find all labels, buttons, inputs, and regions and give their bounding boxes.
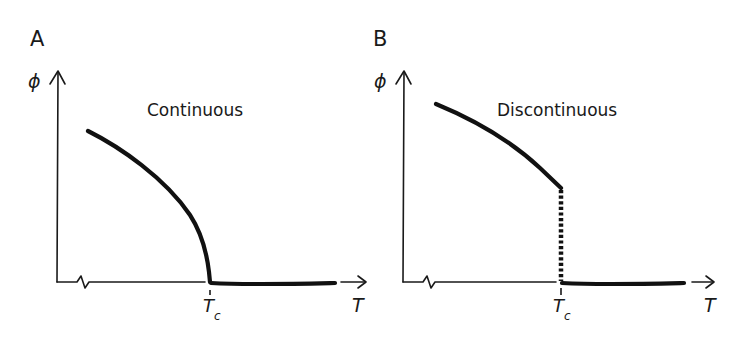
panel-a-title: Continuous bbox=[147, 100, 243, 120]
panel-a-tc-subscript: c bbox=[214, 309, 221, 323]
panel-a-order-parameter-curve bbox=[88, 131, 210, 282]
panel-a-y-label: ϕ bbox=[28, 70, 41, 92]
panel-b-title: Discontinuous bbox=[497, 100, 617, 120]
panel-a: A ϕ T T c Continuous bbox=[28, 27, 366, 323]
panel-b-x-axis bbox=[403, 276, 556, 288]
panel-a-x-axis bbox=[57, 276, 205, 288]
panel-a-zero-line bbox=[211, 283, 335, 284]
panel-b: B ϕ T T c Discontinuous bbox=[373, 27, 717, 323]
panel-b-letter: B bbox=[373, 27, 387, 51]
phase-transition-figure: A ϕ T T c Continuous B ϕ T T c bbox=[0, 0, 743, 337]
panel-b-y-label: ϕ bbox=[374, 70, 387, 92]
panel-b-y-axis bbox=[403, 72, 404, 282]
panel-a-x-label: T bbox=[352, 294, 365, 316]
panel-b-x-label: T bbox=[704, 294, 717, 316]
panel-a-letter: A bbox=[30, 27, 45, 51]
panel-a-y-axis bbox=[57, 72, 58, 282]
panel-b-zero-line bbox=[562, 283, 684, 284]
panel-b-tc-subscript: c bbox=[564, 309, 571, 323]
